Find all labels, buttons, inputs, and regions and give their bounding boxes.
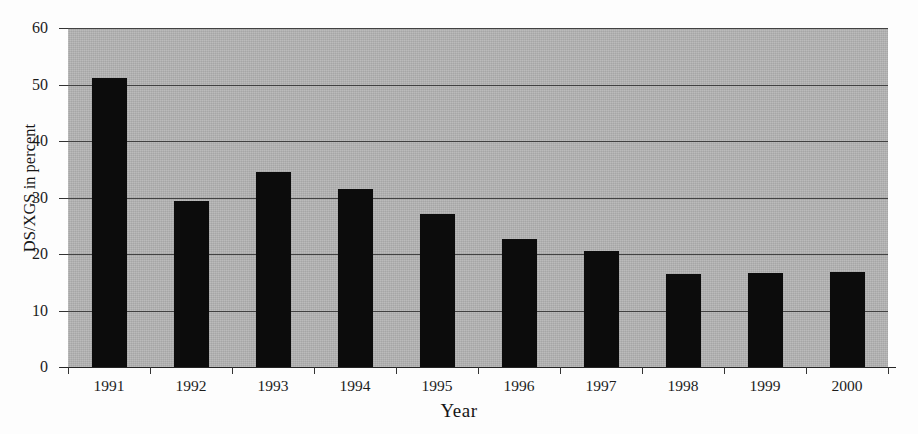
x-axis-tick [150,367,151,374]
y-axis-tick-label: 0 [8,359,48,375]
x-axis-tick-label: 1999 [725,378,805,394]
bar [584,251,619,367]
chart-figure: 0102030405060 19911992199319941995199619… [0,0,918,434]
x-axis-tick [232,367,233,374]
x-axis-tick [314,367,315,374]
bar [174,201,209,367]
gridline [68,141,888,142]
y-axis-tick [59,311,68,312]
x-axis-tick-label: 2000 [807,378,887,394]
bar [502,239,537,367]
bar [420,214,455,367]
x-axis-tick-label: 1993 [233,378,313,394]
x-axis-tick [806,367,807,374]
y-axis-tick-label: 10 [8,303,48,319]
gridline [68,28,888,29]
bar [748,273,783,367]
y-axis-tick [59,141,68,142]
x-axis-tick [888,367,889,374]
bar [338,189,373,367]
x-axis-tick-label: 1995 [397,378,477,394]
y-axis-tick [59,198,68,199]
y-axis-tick [59,85,68,86]
x-axis-tick-label: 1994 [315,378,395,394]
x-axis-tick-label: 1996 [479,378,559,394]
x-axis-title: Year [0,400,918,422]
x-axis-tick [560,367,561,374]
x-axis-tick [396,367,397,374]
y-axis-tick [59,254,68,255]
x-axis-tick [642,367,643,374]
x-axis-tick-label: 1992 [151,378,231,394]
x-axis-tick [478,367,479,374]
bar [666,274,701,367]
y-axis-title: DS/XGS in percent [20,88,40,288]
gridline [68,85,888,86]
y-axis-tick [59,28,68,29]
gridline [68,198,888,199]
bar [256,172,291,367]
x-axis-tick-label: 1997 [561,378,641,394]
bar [92,78,127,367]
x-axis-tick-label: 1991 [69,378,149,394]
x-axis-tick-label: 1998 [643,378,723,394]
bar [830,272,865,367]
y-axis-tick-label: 60 [8,20,48,36]
x-axis-tick [68,367,69,374]
x-axis-tick [724,367,725,374]
